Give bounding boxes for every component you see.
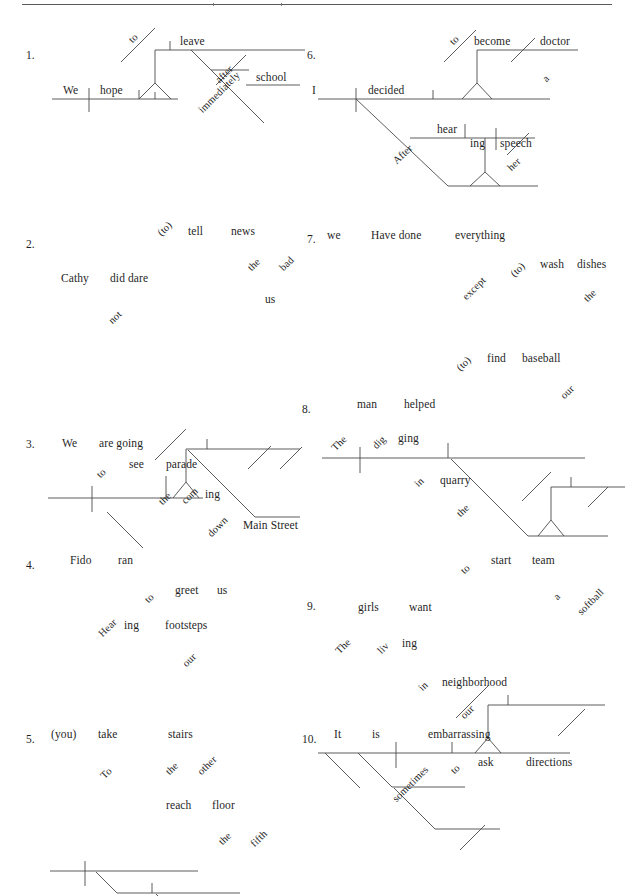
word-d7-wash: wash — [540, 258, 564, 270]
word-d10-ask: ask — [478, 756, 494, 768]
word-d3-see: see — [129, 458, 144, 470]
word-d1-leave: leave — [180, 35, 205, 47]
word-d8-find: find — [487, 352, 506, 364]
word-d6-doctor: doctor — [540, 35, 570, 47]
word-d7-everything: everything — [455, 229, 505, 241]
worksheet-page: 1. We hope to leave immediately after sc… — [0, 0, 632, 896]
diagram-3-lines — [0, 420, 320, 560]
word-d5-reach: reach — [166, 799, 191, 811]
word-d4-ing: ing — [124, 619, 139, 631]
word-d9-want: want — [409, 601, 432, 613]
word-d5-take: take — [98, 728, 118, 740]
word-d4-fido: Fido — [70, 554, 92, 566]
word-d7-we: we — [327, 229, 341, 241]
word-d4-ran: ran — [118, 554, 133, 566]
word-d8-man: man — [357, 398, 377, 410]
word-d6-speech: speech — [500, 137, 532, 149]
word-d9-team: team — [532, 554, 555, 566]
word-d8-ging: ging — [398, 432, 419, 444]
word-d4-us: us — [217, 584, 227, 596]
word-d10-it: It — [334, 728, 341, 740]
word-d1-school: school — [256, 71, 287, 83]
word-d9-neighborhood: neighborhood — [442, 676, 507, 688]
word-d1-hope: hope — [100, 84, 123, 96]
diagram-1-lines — [0, 0, 320, 210]
diagram-6-lines — [300, 0, 632, 210]
word-d6-i: I — [312, 84, 316, 96]
word-d6-ing: ing — [470, 137, 485, 149]
word-d6-hear: hear — [437, 123, 457, 135]
word-d2-cathy: Cathy — [61, 272, 89, 284]
word-d5-floor: floor — [212, 799, 235, 811]
word-d1-we: We — [63, 84, 78, 96]
word-d3-aregoing: are going — [99, 437, 143, 449]
word-d6-become: become — [474, 35, 510, 47]
word-d2-tell: tell — [188, 225, 203, 237]
word-d3-mainstreet: Main Street — [243, 519, 298, 531]
word-d2-diddare: did dare — [110, 272, 148, 284]
word-d9-ing: ing — [402, 637, 417, 649]
word-d6-decided: decided — [368, 84, 404, 96]
word-d3-parade: parade — [166, 458, 197, 470]
word-d8-helped: helped — [404, 398, 435, 410]
word-d4-greet: greet — [175, 584, 198, 596]
word-d10-is: is — [372, 728, 380, 740]
word-d3-ing: ing — [205, 488, 220, 500]
word-d5-you: (you) — [51, 728, 76, 740]
word-d2-us: us — [265, 293, 275, 305]
word-d10-embarrassing: embarrassing — [428, 728, 491, 740]
word-d10-directions: directions — [526, 756, 572, 768]
word-d9-girls: girls — [358, 601, 379, 613]
diagram-4-lines — [0, 545, 320, 675]
word-d2-news: news — [231, 225, 255, 237]
word-d8-quarry: quarry — [440, 474, 471, 486]
word-d4-footsteps: footsteps — [165, 619, 207, 631]
word-d8-the2: the — [454, 502, 471, 519]
word-d9-start: start — [491, 554, 511, 566]
word-d7-havedone: Have done — [371, 229, 421, 241]
word-d5-stairs: stairs — [168, 728, 193, 740]
diagram-5-lines — [0, 700, 320, 896]
word-d8-baseball: baseball — [522, 352, 560, 364]
word-d3-we: We — [62, 437, 77, 449]
word-d7-dishes: dishes — [577, 258, 606, 270]
